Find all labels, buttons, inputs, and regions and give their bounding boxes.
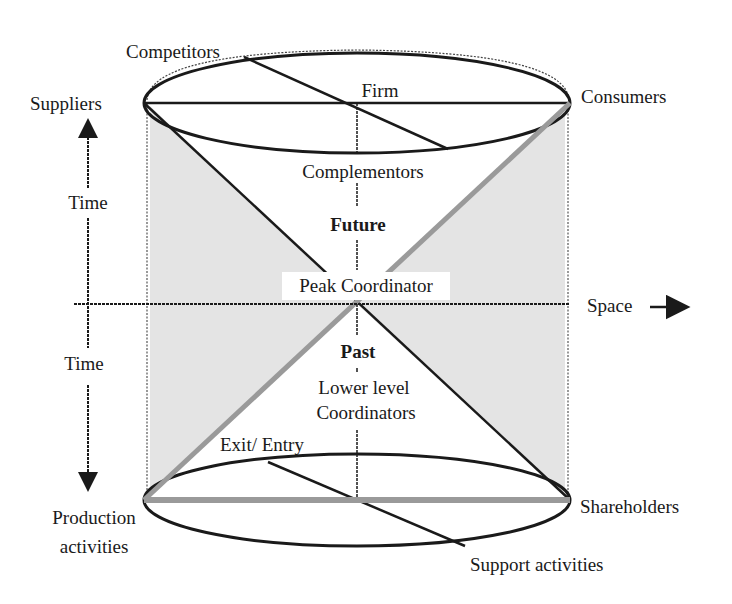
label-past: Past xyxy=(341,341,377,362)
label-coordinators: Coordinators xyxy=(316,402,415,423)
label-production: Production xyxy=(52,507,136,528)
cylinder-diagram: Competitors Firm Suppliers Consumers Com… xyxy=(0,0,732,604)
label-exit-entry: Exit/ Entry xyxy=(220,434,304,455)
bottom-disc-axis-exit-support xyxy=(268,462,465,546)
label-peak-coordinator: Peak Coordinator xyxy=(299,275,433,296)
label-suppliers: Suppliers xyxy=(30,93,102,114)
label-time-down: Time xyxy=(64,353,103,374)
label-competitors: Competitors xyxy=(126,41,220,62)
label-time-up: Time xyxy=(68,192,107,213)
label-activities: activities xyxy=(60,536,129,557)
label-space: Space xyxy=(587,295,632,316)
label-complementors: Complementors xyxy=(302,161,423,182)
label-firm: Firm xyxy=(362,80,399,101)
label-lower-level: Lower level xyxy=(318,377,409,398)
label-support-activities: Support activities xyxy=(470,554,604,575)
label-future: Future xyxy=(330,214,386,235)
label-consumers: Consumers xyxy=(581,86,667,107)
label-shareholders: Shareholders xyxy=(580,496,679,517)
